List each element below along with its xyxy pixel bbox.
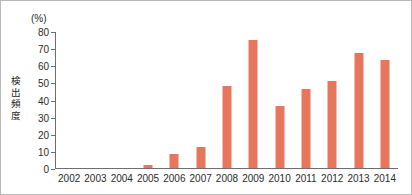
y-tick-label: 50 bbox=[38, 78, 49, 89]
bar-slot: 2002 bbox=[56, 32, 82, 168]
bar-slot: 2011 bbox=[293, 32, 319, 168]
y-tick-mark bbox=[51, 101, 55, 102]
bar bbox=[275, 106, 284, 168]
y-tick-mark bbox=[51, 135, 55, 136]
bar-slot: 2006 bbox=[161, 32, 187, 168]
bar-slot: 2004 bbox=[109, 32, 135, 168]
y-tick-label: 80 bbox=[38, 27, 49, 38]
x-axis-line bbox=[55, 168, 398, 169]
y-axis-title: 検出頻度 bbox=[9, 75, 23, 121]
y-tick-label: 60 bbox=[38, 61, 49, 72]
x-tick-label: 2012 bbox=[321, 173, 343, 184]
y-tick-label: 30 bbox=[38, 112, 49, 123]
y-tick-label: 0 bbox=[43, 164, 49, 175]
y-tick-label: 10 bbox=[38, 146, 49, 157]
bar-slot: 2010 bbox=[266, 32, 292, 168]
x-tick-label: 2011 bbox=[295, 173, 317, 184]
bar-slot: 2009 bbox=[240, 32, 266, 168]
y-tick-mark bbox=[51, 169, 55, 170]
bar-slot: 2014 bbox=[372, 32, 398, 168]
y-tick-mark bbox=[51, 66, 55, 67]
bar-series: 2002200320042005200620072008200920102011… bbox=[56, 32, 398, 168]
y-tick-mark bbox=[51, 49, 55, 50]
x-tick-label: 2005 bbox=[137, 173, 159, 184]
bar bbox=[196, 147, 205, 168]
bar bbox=[144, 165, 153, 168]
bar-slot: 2005 bbox=[135, 32, 161, 168]
x-tick-label: 2010 bbox=[268, 173, 290, 184]
y-tick-mark bbox=[51, 83, 55, 84]
chart-figure: (%) 検出頻度 01020304050607080 2002200320042… bbox=[0, 0, 412, 195]
x-tick-label: 2003 bbox=[84, 173, 106, 184]
bar bbox=[380, 60, 389, 168]
bar-slot: 2007 bbox=[188, 32, 214, 168]
bar-slot: 2003 bbox=[82, 32, 108, 168]
bar bbox=[328, 81, 337, 168]
y-axis-unit-label: (%) bbox=[31, 13, 47, 24]
bar bbox=[249, 40, 258, 168]
x-tick-label: 2006 bbox=[163, 173, 185, 184]
y-tick-mark bbox=[51, 152, 55, 153]
y-tick-label: 20 bbox=[38, 129, 49, 140]
y-tick-label: 40 bbox=[38, 95, 49, 106]
x-tick-label: 2002 bbox=[58, 173, 80, 184]
plot-area: 01020304050607080 2002200320042005200620… bbox=[55, 32, 398, 169]
x-tick-label: 2004 bbox=[111, 173, 133, 184]
bar-slot: 2013 bbox=[345, 32, 371, 168]
x-tick-label: 2008 bbox=[216, 173, 238, 184]
x-tick-label: 2013 bbox=[347, 173, 369, 184]
bar bbox=[301, 89, 310, 168]
y-tick-mark bbox=[51, 32, 55, 33]
y-tick-mark bbox=[51, 118, 55, 119]
x-tick-label: 2009 bbox=[242, 173, 264, 184]
x-tick-label: 2007 bbox=[190, 173, 212, 184]
bar-slot: 2008 bbox=[214, 32, 240, 168]
bar bbox=[222, 86, 231, 168]
x-tick-label: 2014 bbox=[374, 173, 396, 184]
y-tick-label: 70 bbox=[38, 44, 49, 55]
bar bbox=[354, 53, 363, 168]
bar bbox=[170, 154, 179, 168]
bar-slot: 2012 bbox=[319, 32, 345, 168]
